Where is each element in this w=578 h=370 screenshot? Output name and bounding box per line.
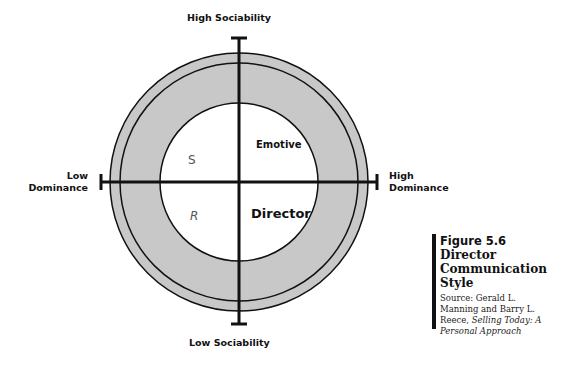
figure-title: Director Communication Style — [440, 248, 578, 290]
quadrant-label-emotive: Emotive — [256, 139, 302, 151]
handwritten-mark-s: S — [188, 153, 196, 167]
figure-title-line3: Style — [440, 276, 578, 290]
figure-caption: Figure 5.6 Director Communication Style … — [440, 234, 578, 337]
axis-label-high-dominance-line1: High — [389, 170, 449, 182]
figure-title-line1: Director — [440, 248, 578, 262]
quadrant-label-director: Director — [251, 206, 311, 221]
axis-label-low-sociability: Low Sociability — [189, 337, 270, 349]
axis-label-high-dominance: High Dominance — [389, 170, 449, 194]
figure-title-line2: Communication — [440, 262, 578, 276]
axis-label-low-dominance-line2: Dominance — [28, 182, 88, 194]
axis-label-high-dominance-line2: Dominance — [389, 182, 449, 194]
axis-label-high-sociability: High Sociability — [187, 12, 271, 24]
axis-label-low-dominance: Low Dominance — [28, 170, 88, 194]
handwritten-mark-r: R — [190, 209, 198, 223]
caption-bar — [432, 234, 436, 329]
figure-number: Figure 5.6 — [440, 234, 578, 248]
figure-source: Source: Gerald L. Manning and Barry L. R… — [440, 293, 552, 337]
axis-label-low-dominance-line1: Low — [28, 170, 88, 182]
